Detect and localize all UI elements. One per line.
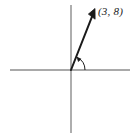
vector-diagram: (3, 8) xyxy=(0,0,138,137)
point-coordinate-label: (3, 8) xyxy=(98,5,123,17)
angle-arc-arrowhead-icon xyxy=(77,57,81,61)
diagram-canvas xyxy=(0,0,138,137)
